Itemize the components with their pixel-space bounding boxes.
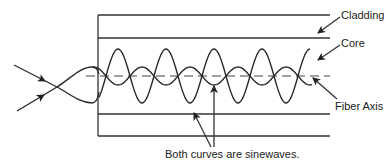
fiber-axis-label: Fiber Axis (335, 100, 384, 112)
fiber-diagram: Cladding Core Fiber Axis Both curves are… (0, 0, 386, 166)
incoming-rays (14, 65, 99, 111)
incoming-ray-upper (14, 65, 99, 103)
small-sinewave (92, 67, 312, 85)
caption-label: Both curves are sinewaves. (165, 148, 300, 160)
fiber-axis-arrow (313, 78, 337, 99)
core-arrow (318, 45, 340, 60)
caption-arrow-large-wave (194, 113, 211, 147)
cladding-arrow (318, 17, 340, 33)
core-label: Core (341, 37, 365, 49)
fiber-structure (86, 15, 330, 136)
annotation-arrows (194, 17, 340, 147)
cladding-label: Cladding (341, 9, 384, 21)
